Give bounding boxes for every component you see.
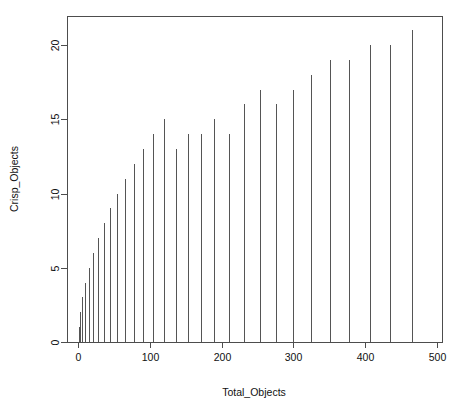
y-tick-label: 20 (49, 40, 61, 52)
x-tick-label: 300 (285, 351, 303, 363)
y-axis-ticks: 05101520 (49, 40, 67, 346)
spike-series (80, 30, 413, 342)
x-tick-label: 0 (76, 351, 82, 363)
x-axis-title: Total_Objects (222, 386, 286, 398)
spike-chart: 0100200300400500 05101520 Total_Objects … (0, 0, 454, 414)
x-tick-label: 400 (357, 351, 375, 363)
x-axis-ticks: 0100200300400500 (76, 342, 447, 363)
y-axis-title: Crisp_Objects (8, 146, 20, 212)
x-tick-label: 200 (214, 351, 232, 363)
y-tick-label: 15 (49, 114, 61, 126)
plot-frame (68, 17, 443, 343)
figure-container: 0100200300400500 05101520 Total_Objects … (0, 0, 454, 414)
plot-box-border (68, 17, 443, 343)
y-tick-label: 5 (49, 265, 61, 271)
y-tick-label: 0 (49, 339, 61, 345)
x-tick-label: 100 (142, 351, 160, 363)
x-tick-label: 500 (429, 351, 447, 363)
y-tick-label: 10 (49, 189, 61, 201)
